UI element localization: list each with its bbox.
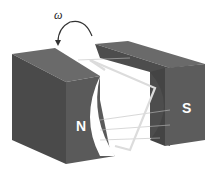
south-label: S xyxy=(182,100,191,116)
rotation-arrow-icon xyxy=(58,21,92,42)
motor-diagram xyxy=(0,0,219,176)
north-label: N xyxy=(76,118,86,134)
omega-label: ω xyxy=(54,8,62,23)
